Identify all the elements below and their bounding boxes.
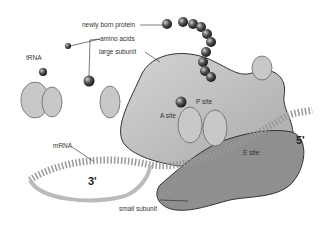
label-amino-acids: amino acids <box>100 36 135 43</box>
label-large-subunit: large subunit <box>99 49 136 56</box>
label-five-prime: 5' <box>296 135 305 146</box>
label-p-site: P site <box>196 99 212 106</box>
label-a-site: A site <box>160 113 176 120</box>
label-three-prime: 3' <box>88 176 97 187</box>
label-mrna: mRNA <box>53 143 72 150</box>
label-e-site: E site <box>243 150 259 157</box>
label-small-subunit: small subunit <box>119 206 157 213</box>
label-newly-born-protein: newly born protein <box>82 22 135 29</box>
label-trna: tRNA <box>26 55 42 62</box>
